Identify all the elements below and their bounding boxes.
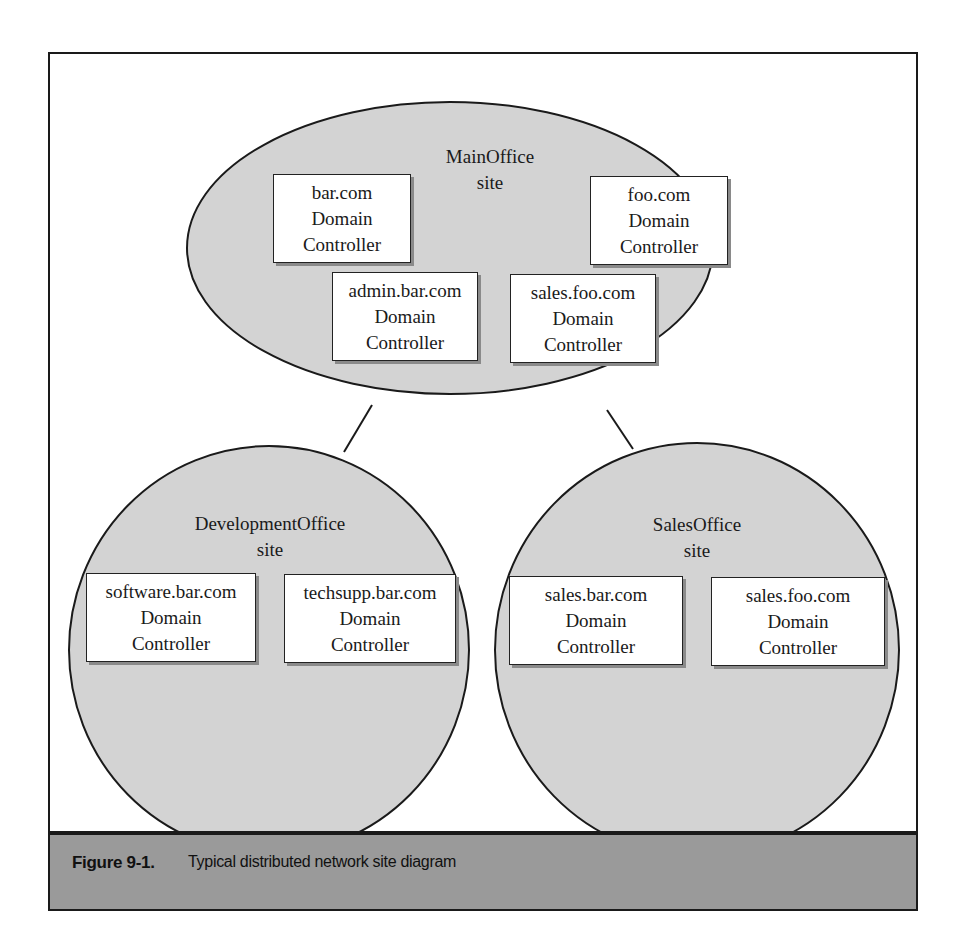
site-name: DevelopmentOffice [180,511,360,537]
controller-line2: Domain [591,208,727,234]
controller-line2: Domain [712,609,884,635]
controller-domain: sales.foo.com [511,280,655,306]
controller-line3: Controller [274,232,410,258]
controller-line3: Controller [591,234,727,260]
controller-domain: foo.com [591,182,727,208]
link-main-sales [607,410,633,449]
controller-sales-foo-com-main: sales.foo.com Domain Controller [510,274,656,363]
site-suffix: site [180,537,360,563]
site-name: SalesOffice [637,512,757,538]
site-diagram [0,0,974,949]
controller-line3: Controller [87,631,255,657]
controller-line3: Controller [510,634,682,660]
controller-domain: techsupp.bar.com [285,580,455,606]
controller-sales-foo-com-sales: sales.foo.com Domain Controller [711,577,885,666]
controller-line3: Controller [511,332,655,358]
controller-domain: bar.com [274,180,410,206]
controller-techsupp-bar-com: techsupp.bar.com Domain Controller [284,574,456,663]
site-suffix: site [430,170,550,196]
controller-bar-com: bar.com Domain Controller [273,174,411,263]
controller-line2: Domain [87,605,255,631]
controller-domain: sales.bar.com [510,582,682,608]
figure-caption-band: Figure 9-1. Typical distributed network … [48,831,918,911]
figure-number: Figure 9-1. [72,853,155,873]
controller-domain: sales.foo.com [712,583,884,609]
controller-sales-bar-com: sales.bar.com Domain Controller [509,576,683,665]
site-label-salesoffice: SalesOffice site [637,512,757,564]
controller-line2: Domain [274,206,410,232]
controller-line3: Controller [712,635,884,661]
controller-foo-com: foo.com Domain Controller [590,176,728,265]
site-suffix: site [637,538,757,564]
controller-domain: admin.bar.com [333,278,477,304]
controller-software-bar-com: software.bar.com Domain Controller [86,573,256,662]
controller-line2: Domain [511,306,655,332]
site-name: MainOffice [430,144,550,170]
controller-line2: Domain [333,304,477,330]
controller-line3: Controller [333,330,477,356]
controller-line2: Domain [285,606,455,632]
controller-domain: software.bar.com [87,579,255,605]
controller-line2: Domain [510,608,682,634]
controller-admin-bar-com: admin.bar.com Domain Controller [332,272,478,361]
site-label-developmentoffice: DevelopmentOffice site [180,511,360,563]
site-label-mainoffice: MainOffice site [430,144,550,196]
controller-line3: Controller [285,632,455,658]
figure-caption: Typical distributed network site diagram [188,853,456,871]
link-main-development [344,405,372,452]
